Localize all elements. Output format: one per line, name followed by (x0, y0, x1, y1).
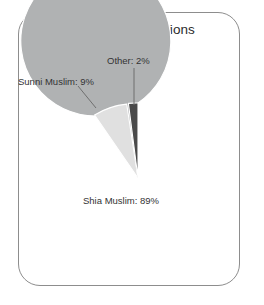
slice-label-other: Other: 2% (107, 55, 150, 66)
pie-chart-figure: Iran: Major Religions Other: 2% Sunni Mu… (0, 0, 264, 305)
slice-label-shia-muslim: Shia Muslim: 89% (83, 195, 159, 206)
pie-slice-shia-muslim (21, 0, 171, 178)
pie-graphic (0, 0, 264, 305)
slice-label-sunni-muslim: Sunni Muslim: 9% (18, 76, 94, 87)
